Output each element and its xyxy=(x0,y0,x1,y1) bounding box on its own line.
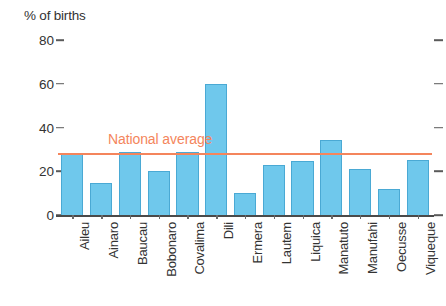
x-axis-tick-mark xyxy=(389,215,390,219)
y-axis-tick-mark-right xyxy=(434,127,443,129)
x-axis-tick-label: Lautem xyxy=(279,222,294,264)
bar xyxy=(61,154,83,215)
x-axis-tick-mark xyxy=(360,215,361,219)
x-axis-tick-label: Oecusse xyxy=(394,222,409,272)
bar xyxy=(407,160,429,215)
x-axis-tick-label: Ermera xyxy=(250,222,265,263)
y-axis-tick-label: 60 xyxy=(39,76,54,91)
plot-area xyxy=(58,40,432,215)
x-axis-tick-mark xyxy=(130,215,131,219)
x-axis-tick-label: Dili xyxy=(221,222,236,239)
x-axis-tick-label: Ainaro xyxy=(106,222,121,258)
national-average-label: National average xyxy=(108,131,212,147)
x-axis-tick-mark xyxy=(187,215,188,219)
x-axis-tick-mark xyxy=(274,215,275,219)
x-axis-tick-mark xyxy=(303,215,304,219)
bar xyxy=(234,193,256,215)
x-axis-tick-label: Liquica xyxy=(308,222,323,262)
y-axis-tick-mark-right xyxy=(434,170,443,172)
x-axis-tick-label: Manatuto xyxy=(336,222,351,275)
x-axis-tick-label: Aileu xyxy=(77,222,92,250)
y-axis-tick-label: 0 xyxy=(46,208,54,223)
x-axis-tick-mark xyxy=(159,215,160,219)
y-axis-tick-mark-right xyxy=(434,83,443,85)
bar xyxy=(119,152,141,215)
x-axis-tick-mark xyxy=(331,215,332,219)
bar xyxy=(320,140,342,215)
bar xyxy=(148,171,170,215)
x-axis-tick-mark xyxy=(101,215,102,219)
y-axis-tick-mark-right xyxy=(434,39,443,41)
y-axis-tick-labels: 020406080 xyxy=(20,0,54,306)
x-axis-tick-label: Viqueque xyxy=(423,222,438,275)
x-axis-tick-mark xyxy=(418,215,419,219)
bar xyxy=(205,84,227,215)
y-axis-tick-mark-right xyxy=(434,214,443,216)
y-axis-tick-label: 40 xyxy=(39,120,54,135)
x-axis-tick-label: Bobonaro xyxy=(164,222,179,277)
x-axis-tick-label: Baucau xyxy=(135,222,150,265)
x-axis-tick-mark xyxy=(216,215,217,219)
x-axis-tick-label: Covalima xyxy=(192,222,207,275)
y-axis-tick-label: 80 xyxy=(39,33,54,48)
x-axis-tick-label: Manufahi xyxy=(365,222,380,274)
national-average-line xyxy=(58,153,432,155)
x-axis-tick-mark xyxy=(72,215,73,219)
bar xyxy=(90,183,112,215)
bar xyxy=(263,165,285,215)
bar-chart: % of births 020406080 National average A… xyxy=(0,0,446,306)
bar xyxy=(291,161,313,215)
x-axis-tick-mark xyxy=(245,215,246,219)
bar xyxy=(378,189,400,215)
y-axis-tick-label: 20 xyxy=(39,164,54,179)
bar xyxy=(349,169,371,215)
bar xyxy=(176,152,198,215)
